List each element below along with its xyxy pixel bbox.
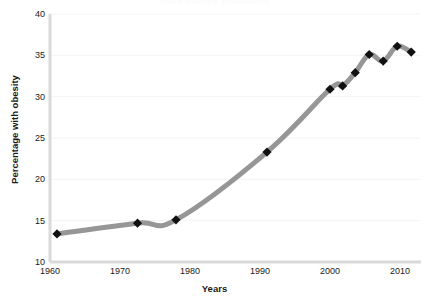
data-point-marker: [133, 219, 142, 228]
data-point-marker: [52, 229, 61, 238]
obesity-line-chart: Adult obesity prevalence Percentage with…: [0, 0, 429, 301]
plot-area: [0, 0, 429, 301]
gridlines: [50, 14, 421, 221]
series-markers: [52, 42, 415, 239]
